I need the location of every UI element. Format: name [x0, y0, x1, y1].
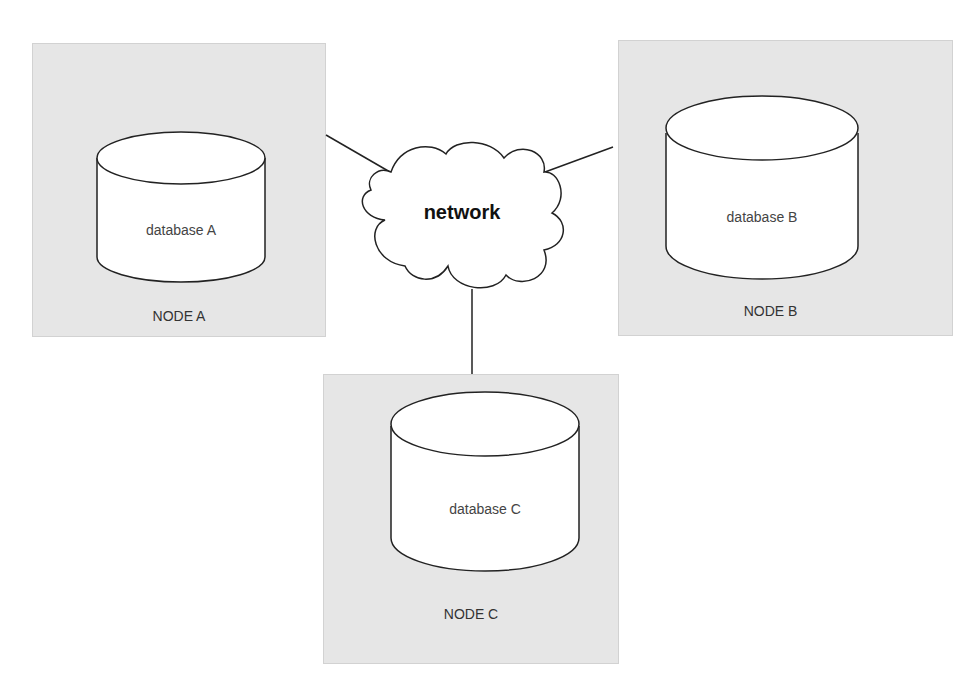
database-c-label: database C [449, 501, 521, 517]
database-b-cylinder-icon: database B [666, 96, 858, 279]
network-label: network [424, 201, 502, 223]
network-cloud-icon: network [362, 142, 563, 287]
database-a-cylinder-icon: database A [97, 132, 265, 282]
connection-b-network [545, 147, 613, 172]
database-a-label: database A [146, 222, 217, 238]
database-c-cylinder-icon: database C [391, 392, 579, 571]
database-b-label: database B [727, 209, 798, 225]
connection-a-network [326, 135, 390, 172]
